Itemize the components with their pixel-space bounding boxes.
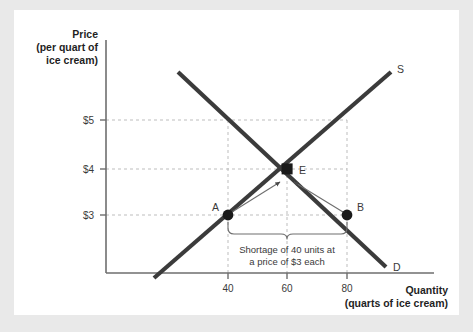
shortage-annotation-text: Shortage of 40 units at a price of $3 ea…: [239, 244, 335, 267]
y-axis-title-line-3: ice cream): [46, 54, 98, 66]
supply-demand-chart: Price (per quart of ice cream) $5 $4 $3 …: [14, 10, 459, 315]
curve-labels: S D: [393, 63, 404, 273]
demand-curve-label: D: [393, 261, 401, 273]
x-tick-labels: 40 60 80: [222, 283, 353, 294]
point-marker-b[interactable]: [342, 210, 353, 221]
y-axis-title-line-2: (per quart of: [36, 41, 98, 53]
data-points: [223, 163, 353, 220]
x-tick-label-80: 80: [341, 283, 353, 294]
point-marker-e[interactable]: [282, 163, 293, 174]
arrow-from-a-to-equilibrium: [232, 182, 280, 212]
supply-curve-label: S: [397, 63, 404, 75]
point-label-a: A: [212, 201, 219, 213]
shortage-brace: [228, 222, 347, 239]
arrow-from-b-to-equilibrium: [294, 182, 343, 212]
y-axis-title-line-1: Price: [72, 28, 98, 40]
point-marker-a[interactable]: [223, 210, 234, 221]
y-tick-label-4: $4: [83, 164, 95, 175]
x-axis-title: Quantity (quarts of ice cream): [345, 284, 448, 309]
point-label-b: B: [357, 201, 364, 213]
x-tick-label-60: 60: [281, 283, 293, 294]
point-label-e: E: [299, 164, 306, 176]
x-axis-title-line-2: (quarts of ice cream): [345, 297, 448, 309]
y-tick-label-3: $3: [83, 210, 95, 221]
shortage-annotation-line-1: Shortage of 40 units at: [239, 244, 335, 255]
y-tick-labels: $5 $4 $3: [83, 115, 95, 221]
x-tick-label-40: 40: [222, 283, 234, 294]
shortage-annotation-line-2: a price of $3 each: [249, 256, 325, 267]
chart-card: Price (per quart of ice cream) $5 $4 $3 …: [14, 10, 459, 315]
y-axis-title: Price (per quart of ice cream): [36, 28, 98, 66]
x-axis-title-line-1: Quantity: [405, 284, 448, 296]
y-tick-label-5: $5: [83, 115, 95, 126]
